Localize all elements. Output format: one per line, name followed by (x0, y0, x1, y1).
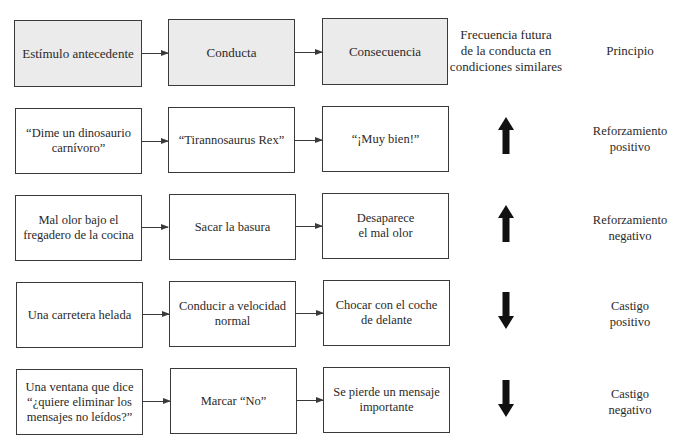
row-2-consequence-box: Desaparece el mal olor (322, 193, 449, 259)
row-3-behavior-text: Conducir a velocidad normal (179, 299, 286, 329)
connector-arrow-icon (296, 226, 322, 227)
row-3-consequence-text: Chocar con el coche de delante (336, 298, 438, 328)
row-1-behavior-text: “Tirannosaurus Rex” (179, 133, 284, 148)
row-2-consequence-text: Desaparece el mal olor (357, 211, 415, 241)
operant-conditioning-diagram: Estímulo antecedente Conducta Consecuenc… (0, 0, 686, 444)
row-4-antecedent-text: Una ventana que dice “¿quiere eliminar l… (26, 380, 134, 425)
row-3-antecedent-text: Una carretera helada (28, 308, 131, 323)
connector-arrow-icon (296, 313, 323, 314)
row-1-antecedent-box: “Dime un dinosaurio carnívoro” (15, 108, 142, 174)
header-behavior-label: Conducta (207, 45, 257, 60)
connector-arrow-icon (142, 141, 168, 142)
connector-arrow-icon (143, 314, 169, 315)
row-3-behavior-box: Conducir a velocidad normal (169, 281, 296, 347)
connector-arrow-icon (143, 401, 170, 402)
row-3-antecedent-box: Una carretera helada (16, 282, 143, 348)
header-consequence-label: Consecuencia (349, 44, 421, 59)
row-2-antecedent-box: Mal olor bajo el fregadero de la cocina (15, 195, 142, 261)
row-4-consequence-box: Se pierde un mensaje importante (323, 367, 450, 433)
row-1-consequence-box: “¡Muy bien!” (322, 106, 449, 172)
arrow-down-icon (497, 292, 515, 329)
row-3-consequence-box: Chocar con el coche de delante (323, 280, 450, 346)
row-4-antecedent-box: Una ventana que dice “¿quiere eliminar l… (16, 369, 143, 435)
connector-arrow-icon (295, 140, 322, 141)
row-4-principle: Castigo negativo (575, 386, 685, 418)
row-1-principle: Reforzamiento positivo (575, 123, 685, 155)
connector-arrow-icon (142, 227, 168, 228)
connector-arrow-icon (295, 52, 322, 53)
row-2-behavior-box: Sacar la basura (169, 194, 296, 260)
header-behavior-box: Conducta (168, 19, 295, 86)
arrow-up-icon (497, 117, 515, 154)
arrow-up-icon (497, 205, 515, 242)
row-1-behavior-box: “Tirannosaurus Rex” (168, 107, 295, 173)
row-4-behavior-text: Marcar “No” (201, 394, 267, 409)
row-1-antecedent-text: “Dime un dinosaurio carnívoro” (26, 126, 131, 156)
row-1-consequence-text: “¡Muy bien!” (352, 132, 420, 147)
row-3-principle: Castigo positivo (575, 298, 685, 330)
row-2-antecedent-text: Mal olor bajo el fregadero de la cocina (23, 213, 134, 243)
connector-arrow-icon (297, 400, 323, 401)
header-consequence-box: Consecuencia (322, 18, 448, 85)
header-frequency-label: Frecuencia futura de la conducta en cond… (447, 27, 565, 75)
arrow-down-icon (497, 380, 515, 417)
header-antecedent-box: Estímulo antecedente (14, 20, 142, 87)
row-4-behavior-box: Marcar “No” (170, 368, 297, 434)
row-2-principle: Reforzamiento negativo (575, 212, 685, 244)
connector-arrow-icon (142, 53, 168, 54)
header-antecedent-label: Estímulo antecedente (22, 46, 134, 61)
row-2-behavior-text: Sacar la basura (195, 220, 271, 235)
row-4-consequence-text: Se pierde un mensaje importante (333, 385, 440, 415)
header-principle-label: Principio (575, 43, 685, 59)
